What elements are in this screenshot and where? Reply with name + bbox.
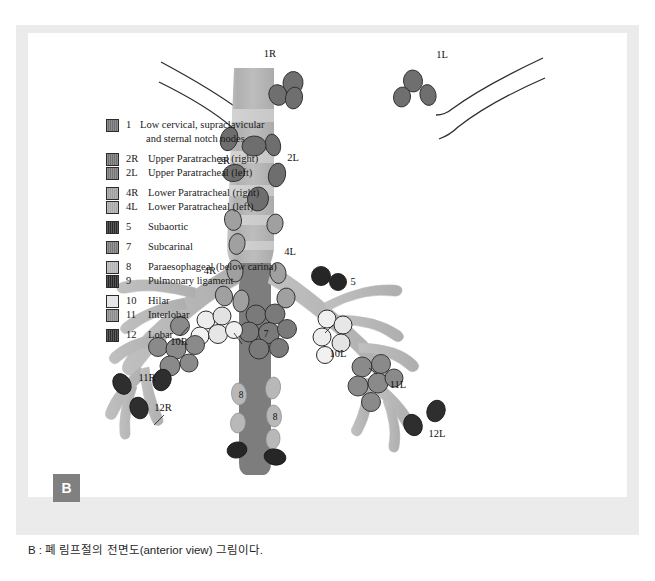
legend-label-2l: Upper Paratracheal (left) — [148, 166, 252, 179]
legend-group-5: 5 Subaortic — [106, 220, 336, 233]
legend-swatch-12 — [106, 329, 119, 342]
label-5: 5 — [350, 276, 355, 287]
legend-label-11: Interlobar — [148, 308, 189, 321]
legend-item-4l: 4L Lower Paratracheal (left) — [106, 200, 336, 213]
legend-swatch-5 — [106, 221, 119, 234]
label-12l: 12L — [429, 428, 446, 439]
legend-label-10: Hilar — [148, 294, 170, 307]
legend-item-7: 7 Subcarinal — [106, 240, 336, 253]
legend-code-12: 12 — [126, 328, 148, 341]
legend-group-12: 12 Lobar — [106, 328, 336, 341]
label-10l: 10L — [330, 348, 347, 359]
legend-label-12: Lobar — [148, 328, 173, 341]
label-1r: 1R — [264, 48, 276, 59]
legend-swatch-4r — [106, 187, 119, 200]
node-10l — [334, 316, 352, 334]
legend-code-10: 10 — [126, 294, 148, 307]
legend-code-4r: 4R — [126, 186, 148, 199]
label-1l: 1L — [436, 49, 448, 60]
legend-group-7: 7 Subcarinal — [106, 240, 336, 253]
legend-label-4l: Lower Paratracheal (left) — [148, 200, 254, 213]
label-12r: 12R — [154, 402, 172, 413]
legend-swatch-7 — [106, 241, 119, 254]
label-8-left: 8 — [273, 412, 278, 422]
legend-group-2: 2R Upper Paratracheal (right) 2L Upper P… — [106, 152, 336, 179]
legend-code-7: 7 — [126, 240, 148, 253]
legend-item-5: 5 Subaortic — [106, 220, 336, 233]
legend-item-4r: 4R Lower Paratracheal (right) — [106, 186, 336, 199]
legend-item-11: 11 Interlobar — [106, 308, 336, 321]
legend-code-5: 5 — [126, 220, 148, 233]
legend-swatch-2l — [106, 167, 119, 180]
node-11l — [348, 376, 368, 396]
legend-item-2l: 2L Upper Paratracheal (left) — [106, 166, 336, 179]
label-11l: 11L — [390, 379, 407, 390]
legend-label-8: Paraesophageal (below carina) — [148, 260, 277, 273]
legend-label-1: Low cervical, supraclavicular — [140, 118, 264, 131]
legend-item-1: 1 Low cervical, supraclavicular — [106, 118, 336, 131]
legend-code-9: 9 — [126, 274, 148, 287]
node-group-1 — [266, 69, 438, 110]
legend-code-4l: 4L — [126, 200, 148, 213]
label-8-right: 8 — [239, 390, 244, 400]
legend-item-10: 10 Hilar — [106, 294, 336, 307]
legend-item-12: 12 Lobar — [106, 328, 336, 341]
panel-badge-b: B — [53, 474, 80, 502]
legend-swatch-4l — [106, 201, 119, 214]
legend-item-9: 9 Pulmonary ligament — [106, 274, 336, 287]
legend-group-1: 1 Low cervical, supraclavicular and ster… — [106, 118, 336, 145]
legend-label-1-line2: and sternal notch nodes — [146, 132, 336, 145]
legend-item-2r: 2R Upper Paratracheal (right) — [106, 152, 336, 165]
legend-label-4r: Lower Paratracheal (right) — [148, 186, 259, 199]
legend-code-2l: 2L — [126, 166, 148, 179]
figure-page: 1R 1L 2R 2L 4R 4L 5 7 10R 10L 11R 11L 12… — [0, 0, 655, 581]
figure-caption: B : 폐 림프절의 전면도(anterior view) 그림이다. — [28, 541, 263, 557]
legend-swatch-11 — [106, 309, 119, 322]
legend-group-8-9: 8 Paraesophageal (below carina) 9 Pulmon… — [106, 260, 336, 287]
legend-group-4: 4R Lower Paratracheal (right) 4L Lower P… — [106, 186, 336, 213]
legend-code-2r: 2R — [126, 152, 148, 165]
legend-swatch-8 — [106, 261, 119, 274]
legend-swatch-9 — [106, 275, 119, 288]
legend-label-5: Subaortic — [148, 220, 188, 233]
legend-code-1: 1 — [126, 118, 140, 131]
legend-swatch-2r — [106, 153, 119, 166]
legend: 1 Low cervical, supraclavicular and ster… — [106, 118, 336, 348]
legend-code-11: 11 — [126, 308, 148, 321]
legend-code-8: 8 — [126, 260, 148, 273]
legend-label-7: Subcarinal — [148, 240, 193, 253]
legend-swatch-1 — [106, 119, 119, 132]
label-11r: 11R — [138, 372, 155, 383]
legend-item-8: 8 Paraesophageal (below carina) — [106, 260, 336, 273]
node-12l-a — [424, 398, 448, 425]
legend-swatch-10 — [106, 295, 119, 308]
legend-group-10-11: 10 Hilar 11 Interlobar — [106, 294, 336, 321]
legend-label-9: Pulmonary ligament — [148, 274, 233, 287]
legend-label-2r: Upper Paratracheal (right) — [148, 152, 258, 165]
